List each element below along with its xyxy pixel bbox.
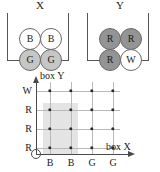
x-tick-label: B [43, 157, 57, 168]
data-point [111, 108, 114, 111]
ball-x-1: B [19, 28, 41, 50]
y-tick-label: R [18, 123, 32, 134]
y-tick-label: W [18, 85, 32, 96]
data-point [69, 89, 72, 92]
gridline-v [71, 82, 72, 155]
data-point [90, 146, 93, 149]
x-tick-label: G [106, 157, 120, 168]
data-point [90, 89, 93, 92]
ball-y-2: R [120, 28, 142, 50]
x-axis-title: box X [106, 141, 131, 152]
data-point [90, 127, 93, 130]
ball-boxes-panel: X B B G G Y R R R W [0, 0, 160, 68]
box-y: Y R R R W [86, 0, 154, 66]
box-x: X B B G G [6, 0, 74, 66]
box-x-frame: B B G G [7, 13, 69, 61]
sample-space-chart: box Y box X WRRR BBGG [0, 68, 160, 172]
origin-marker-icon [31, 149, 41, 159]
box-y-title: Y [86, 0, 154, 11]
gridline-v [50, 82, 51, 155]
x-tick-label: B [64, 157, 78, 168]
y-axis-line [36, 82, 37, 155]
data-point [90, 108, 93, 111]
ball-y-1: R [99, 28, 121, 50]
y-tick-label: R [18, 104, 32, 115]
y-tick-label: R [18, 142, 32, 153]
ball-x-2: B [40, 28, 62, 50]
x-axis-line [36, 154, 129, 155]
y-axis-title: box Y [40, 70, 64, 81]
data-point [48, 89, 51, 92]
data-point [111, 127, 114, 130]
gridline-v [92, 82, 93, 155]
box-y-frame: R R R W [87, 13, 149, 61]
box-x-title: X [6, 0, 74, 11]
data-point [111, 89, 114, 92]
x-tick-label: G [85, 157, 99, 168]
y-axis-arrow [33, 76, 39, 83]
